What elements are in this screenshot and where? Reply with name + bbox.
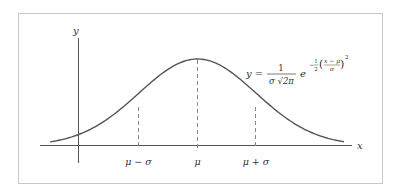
formula-close-paren: ) — [340, 58, 344, 71]
y-axis-label: y — [72, 25, 79, 36]
tick-label-mu-minus-sigma: μ − σ — [125, 156, 152, 167]
formula-exponent-half-num: 1 — [314, 58, 318, 64]
tick-label-mu: μ — [194, 156, 200, 167]
formula-exponent-power: 2 — [345, 54, 349, 60]
normal-distribution-figure: y x μ − σ μ μ + σ y = 1 σ √2π e − 1 2 ( … — [0, 0, 398, 191]
formula-denominator: σ √2π — [269, 76, 294, 86]
tick-label-mu-plus-sigma: μ + σ — [243, 156, 270, 167]
diagram-canvas: y x μ − σ μ μ + σ y = 1 σ √2π e − 1 2 ( … — [0, 0, 398, 191]
formula-exponent-frac-num: x − μ — [324, 57, 340, 65]
x-axis-label: x — [357, 140, 363, 151]
formula-lhs: y = — [245, 68, 263, 79]
formula-numerator: 1 — [278, 63, 283, 73]
formula-open-paren: ( — [319, 58, 323, 71]
formula-exponent-half-den: 2 — [314, 66, 318, 72]
formula-base-e: e — [300, 68, 306, 79]
